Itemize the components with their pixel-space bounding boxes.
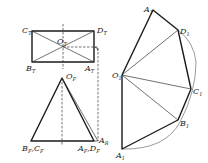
development-diagram: CT DT OT BT AT OF BF,CF AF,DF AR A1 D1 O… [0, 0, 208, 163]
label-bt: BT [25, 64, 36, 74]
label-dt: DT [96, 26, 107, 36]
fold-line-o-c [122, 75, 191, 89]
label-ct: CT [22, 26, 32, 36]
label-ot: OT [57, 37, 68, 47]
development-arc [122, 30, 196, 149]
fold-line-o-d [122, 30, 178, 75]
label-a1-top: A1 [143, 5, 153, 15]
label-bf-cf: BF,CF [21, 144, 44, 154]
label-ar: AR [98, 136, 109, 146]
label-c1: C1 [193, 87, 202, 97]
label-af-df: AF,DF [77, 144, 100, 154]
front-triangle [31, 78, 94, 141]
true-length-line [62, 78, 98, 141]
label-b1: B1 [179, 119, 189, 129]
label-a1-bottom: A1 [115, 151, 125, 161]
front-view [31, 78, 98, 145]
label-at: AT [84, 64, 95, 74]
label-of: OF [66, 72, 77, 82]
fold-line-o-b [122, 75, 178, 120]
label-o1: O1 [112, 71, 122, 81]
label-d1: D1 [179, 27, 190, 37]
